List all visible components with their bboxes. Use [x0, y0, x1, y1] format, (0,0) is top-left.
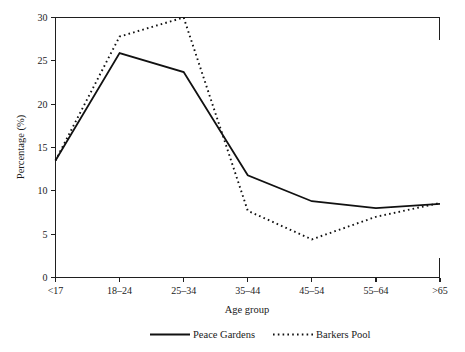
x-tick-label: <17 — [48, 285, 64, 296]
legend-label-peace-gardens: Peace Gardens — [193, 329, 255, 340]
data-series-group — [56, 18, 441, 240]
chart-canvas: 051015202530 <1718–2425–3435–4445–5455–6… — [0, 0, 465, 352]
x-axis-ticks: <1718–2425–3435–4445–5455–64>65 — [48, 278, 448, 296]
y-tick-label: 20 — [38, 99, 48, 110]
y-tick-label: 30 — [38, 12, 48, 23]
x-axis-title: Age group — [225, 304, 270, 315]
y-axis-ticks: 051015202530 — [38, 12, 56, 283]
x-tick-label: >65 — [432, 285, 448, 296]
legend-label-barkers-pool: Barkers Pool — [316, 329, 371, 340]
y-tick-label: 15 — [38, 142, 48, 153]
y-tick-label: 0 — [43, 272, 48, 283]
x-tick-label: 55–64 — [363, 285, 388, 296]
y-axis-title: Percentage (%) — [15, 114, 27, 179]
x-tick-label: 45–54 — [299, 285, 324, 296]
line-chart-figure: 051015202530 <1718–2425–3435–4445–5455–6… — [0, 0, 465, 352]
axis-frame — [55, 17, 440, 278]
series-line-peace-gardens — [56, 53, 441, 208]
y-tick-label: 5 — [43, 229, 48, 240]
y-tick-label: 25 — [38, 55, 48, 66]
series-line-barkers-pool — [56, 18, 441, 240]
x-tick-label: 18–24 — [107, 285, 132, 296]
chart-legend: Peace Gardens Barkers Pool — [150, 329, 371, 340]
x-tick-label: 25–34 — [171, 285, 196, 296]
y-tick-label: 10 — [38, 185, 48, 196]
x-tick-label: 35–44 — [235, 285, 260, 296]
